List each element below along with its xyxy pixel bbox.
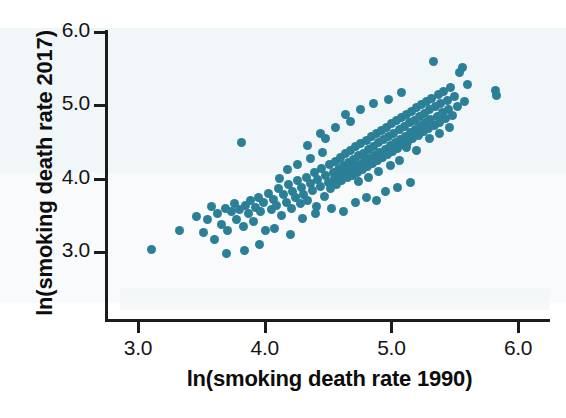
scatter-plot-figure: 3.04.05.06.0 3.04.05.06.0 ln(smoking dea…: [0, 0, 566, 418]
x-tick-mark: [390, 321, 393, 333]
scatter-point: [406, 178, 415, 187]
x-tick-label: 3.0: [110, 336, 166, 360]
scatter-point: [354, 177, 363, 186]
scatter-point: [293, 160, 302, 169]
scatter-point: [362, 193, 371, 202]
y-tick-mark: [94, 31, 106, 34]
scatter-point: [192, 212, 201, 221]
scatter-point: [435, 129, 444, 138]
y-tick-mark: [94, 251, 106, 254]
x-axis-line: [105, 319, 550, 322]
scatter-point: [463, 80, 472, 89]
scatter-point: [446, 83, 455, 92]
scatter-point: [412, 146, 421, 155]
scatter-point: [287, 204, 296, 213]
scatter-point: [351, 198, 360, 207]
scatter-point: [448, 111, 457, 120]
scatter-point: [429, 57, 438, 66]
scatter-point: [255, 240, 264, 249]
scatter-point: [372, 196, 381, 205]
scatter-point: [270, 224, 279, 233]
scatter-point: [369, 99, 378, 108]
scatter-point: [384, 95, 393, 104]
scatter-point: [175, 226, 184, 235]
scatter-point: [283, 165, 292, 174]
x-tick-label: 4.0: [237, 336, 293, 360]
scatter-point: [240, 246, 249, 255]
scatter-point: [286, 230, 295, 239]
scatter-point: [356, 105, 365, 114]
scatter-point: [239, 222, 248, 231]
scatter-point: [425, 134, 434, 143]
scatter-point: [339, 207, 348, 216]
scatter-point: [341, 110, 350, 119]
x-tick-mark: [137, 321, 140, 333]
scatter-point: [223, 226, 232, 235]
scatter-point: [458, 63, 467, 72]
scatter-point: [222, 249, 231, 258]
scatter-point: [303, 196, 312, 205]
scatter-point: [272, 201, 281, 210]
scatter-point: [306, 154, 315, 163]
scatter-point: [147, 245, 156, 254]
x-tick-label: 5.0: [363, 336, 419, 360]
scatter-point: [249, 217, 258, 226]
scatter-point: [210, 235, 219, 244]
x-tick-label: 6.0: [490, 336, 546, 360]
scatter-point: [364, 173, 373, 182]
scatter-point: [318, 148, 327, 157]
y-axis-line: [105, 30, 108, 322]
x-tick-mark: [264, 321, 267, 333]
scatter-point: [203, 215, 212, 224]
y-tick-mark: [94, 178, 106, 181]
scatter-point: [327, 204, 336, 213]
scatter-point: [199, 228, 208, 237]
scatter-point: [311, 209, 320, 218]
scatter-point: [237, 138, 246, 147]
y-tick-mark: [94, 104, 106, 107]
scatter-point: [275, 174, 284, 183]
scatter-point: [277, 211, 286, 220]
scatter-point: [256, 207, 265, 216]
scatter-point: [395, 156, 404, 165]
scatter-point: [386, 161, 395, 170]
scatter-point: [261, 226, 270, 235]
scatter-point: [381, 187, 390, 196]
scatter-point: [374, 167, 383, 176]
scatter-point: [321, 134, 330, 143]
scatter-point: [450, 92, 459, 101]
scatter-point: [397, 88, 406, 97]
scatter-point: [259, 198, 268, 207]
scatter-point: [445, 123, 454, 132]
scatter-point: [492, 91, 501, 100]
scatter-point: [298, 214, 307, 223]
scatter-point: [320, 192, 329, 201]
scatter-point: [460, 97, 469, 106]
scatter-point: [303, 141, 312, 150]
scatter-point: [331, 123, 340, 132]
x-tick-mark: [517, 321, 520, 333]
y-axis-title: ln(smoking death rate 2017): [32, 8, 58, 338]
scatter-point: [402, 143, 411, 152]
scatter-point: [393, 183, 402, 192]
x-axis-title: ln(smoking death rate 1990): [107, 366, 552, 392]
